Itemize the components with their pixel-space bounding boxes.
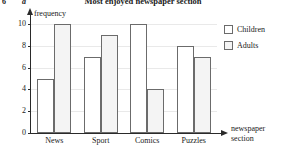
plot-area — [31, 24, 217, 133]
bar-puzzles-adults — [194, 57, 211, 133]
x-tick-label: News — [29, 136, 79, 145]
bar-news-children — [37, 79, 54, 134]
bar-puzzles-children — [177, 46, 194, 133]
y-tick-label: 6 — [10, 64, 26, 72]
legend-label-children: Children — [237, 25, 265, 34]
legend-item-adults[interactable]: Adults — [224, 37, 265, 53]
x-axis-line — [31, 133, 222, 134]
legend-label-adults: Adults — [237, 41, 258, 50]
y-tick-label: 2 — [10, 107, 26, 115]
x-tick-label: Comics — [122, 136, 172, 145]
y-tick-label: 4 — [10, 85, 26, 93]
question-number: 6 — [2, 0, 6, 6]
x-axis-label: newspaper section — [231, 124, 285, 143]
legend-item-children[interactable]: Children — [224, 21, 265, 37]
question-part-label: a — [22, 0, 26, 6]
legend-swatch-children-icon — [224, 25, 233, 34]
chart-page: 6 a Most enjoyed newspaper section frequ… — [0, 0, 286, 152]
legend: Children Adults — [224, 21, 265, 53]
y-tick-label: 8 — [10, 42, 26, 50]
y-tick-mark — [28, 133, 31, 134]
x-axis-label-line2: section — [231, 134, 285, 144]
chart-title: Most enjoyed newspaper section — [58, 0, 228, 6]
y-axis-label: frequency — [34, 9, 66, 18]
x-axis-arrowhead — [221, 130, 228, 136]
x-tick-label: Sport — [76, 136, 126, 145]
y-tick-label: 0 — [10, 129, 26, 137]
bar-sport-adults — [101, 35, 118, 133]
bar-news-adults — [54, 24, 71, 133]
y-tick-label: 10 — [10, 20, 26, 28]
bar-sport-children — [84, 57, 101, 133]
x-axis-label-line1: newspaper — [231, 124, 285, 134]
x-tick-label: Puzzles — [169, 136, 219, 145]
bar-comics-adults — [147, 89, 164, 133]
legend-swatch-adults-icon — [224, 41, 233, 50]
bar-comics-children — [130, 24, 147, 133]
